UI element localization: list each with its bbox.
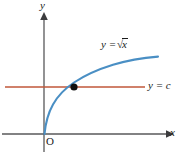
radicand: x <box>122 38 128 50</box>
math-figure: y x O y =√x y = c <box>0 0 181 157</box>
horizontal-line-label: y = c <box>148 80 171 91</box>
y-axis-arrowhead <box>40 12 48 20</box>
radical-group: √x <box>116 38 128 50</box>
clipped-caption <box>2 149 72 155</box>
y-axis-label: y <box>40 0 45 11</box>
intersection-point <box>70 83 77 90</box>
sqrt-curve <box>45 57 159 134</box>
origin-label: O <box>46 136 54 147</box>
curve-equation-prefix: y = <box>101 38 116 50</box>
curve-equation-label: y =√x <box>101 38 128 50</box>
x-axis-label: x <box>170 127 175 138</box>
